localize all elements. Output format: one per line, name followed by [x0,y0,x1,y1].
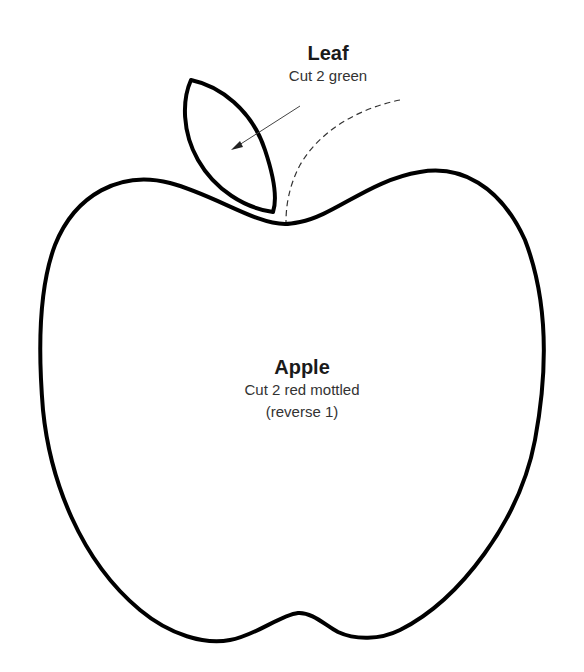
leaf-title: Leaf [258,41,398,65]
pattern-canvas: Leaf Cut 2 green Apple Cut 2 red mottled… [0,0,584,672]
apple-note: (reverse 1) [212,401,392,423]
arrow-icon [231,106,300,150]
apple-instruction: Cut 2 red mottled [212,379,392,401]
leaf-instruction: Cut 2 green [258,65,398,87]
apple-label: Apple Cut 2 red mottled (reverse 1) [212,355,392,423]
pattern-drawing [0,0,584,672]
apple-title: Apple [212,355,392,379]
leaf-label: Leaf Cut 2 green [258,41,398,87]
